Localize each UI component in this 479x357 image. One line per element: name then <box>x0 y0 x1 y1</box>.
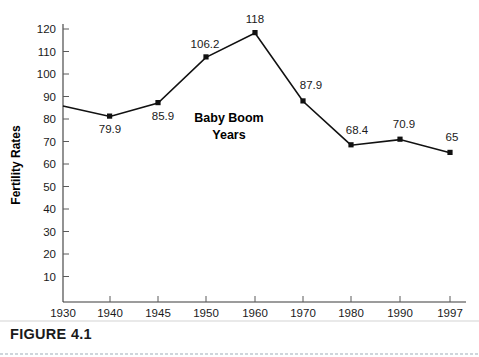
fertility-rates-line-chart: Fertility Rates 120 110 100 90 80 70 60 … <box>0 0 479 320</box>
x-tick-label-1930: 1930 <box>50 307 76 319</box>
y-tick-label-60: 60 <box>43 158 56 170</box>
data-point-marker-1940[interactable] <box>107 114 112 119</box>
data-label-1980: 68.4 <box>346 124 369 136</box>
y-tick-label-20: 20 <box>43 248 56 260</box>
y-tick-label-90: 90 <box>43 91 56 103</box>
y-tick-label-10: 10 <box>43 271 56 283</box>
data-point-marker-1950[interactable] <box>203 54 208 59</box>
data-label-1997: 65 <box>446 131 459 143</box>
data-point-marker-1960[interactable] <box>252 30 257 35</box>
x-tick-label-1950: 1950 <box>193 307 219 319</box>
data-point-marker-1945[interactable] <box>155 100 160 105</box>
y-tick-label-110: 110 <box>38 46 56 58</box>
figure-caption: FIGURE 4.1 <box>10 326 92 342</box>
y-tick-label-70: 70 <box>43 136 56 148</box>
data-label-1945: 85.9 <box>152 110 174 122</box>
figure-caption-bar: FIGURE 4.1 <box>0 320 479 357</box>
y-tick-label-50: 50 <box>43 181 56 193</box>
chart-svg: Fertility Rates 120 110 100 90 80 70 60 … <box>0 0 479 320</box>
y-tick-label-120: 120 <box>37 23 56 35</box>
data-point-marker-1997[interactable] <box>447 150 452 155</box>
y-tick-label-30: 30 <box>43 226 56 238</box>
x-tick-label-1945: 1945 <box>145 307 171 319</box>
x-tick-label-1970: 1970 <box>290 307 316 319</box>
y-axis-title: Fertility Rates <box>9 125 23 205</box>
y-tick-label-100: 100 <box>37 68 56 80</box>
data-point-marker-1970[interactable] <box>300 98 305 103</box>
caption-rule-bottom <box>0 353 479 355</box>
x-tick-label-1997: 1997 <box>437 307 463 319</box>
data-label-1970: 87.9 <box>300 79 322 91</box>
data-point-marker-1990[interactable] <box>397 137 402 142</box>
data-label-1990: 70.9 <box>393 118 415 130</box>
x-tick-label-1980: 1980 <box>338 307 364 319</box>
x-tick-label-1960: 1960 <box>242 307 268 319</box>
y-tick-label-40: 40 <box>43 203 56 215</box>
baby-boom-annotation-line-2: Years <box>212 128 245 142</box>
data-label-1940: 79.9 <box>99 123 121 135</box>
y-tick-label-80: 80 <box>43 113 56 125</box>
x-tick-label-1940: 1940 <box>97 307 123 319</box>
baby-boom-annotation-line-1: Baby Boom <box>194 111 263 125</box>
x-tick-label-1990: 1990 <box>387 307 413 319</box>
data-label-1950: 106.2 <box>191 38 220 50</box>
data-point-marker-1980[interactable] <box>348 142 353 147</box>
figure-container: Fertility Rates 120 110 100 90 80 70 60 … <box>0 0 479 357</box>
data-label-1960: 118 <box>246 13 264 25</box>
caption-rule-top <box>0 320 479 322</box>
